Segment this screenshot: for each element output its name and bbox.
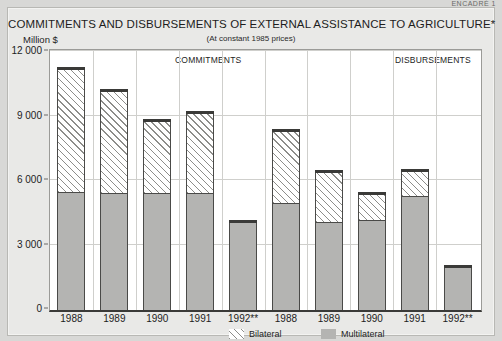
group-label-disbursements: DISBURSEMENTS (395, 55, 471, 65)
bar-1988-commitments (57, 67, 85, 310)
bar-1991-disbursements (401, 169, 429, 310)
gridline-x-5 (265, 50, 266, 310)
bar-top-cap (57, 67, 85, 70)
legend-swatch-bilateral (229, 329, 244, 339)
bar-segment-bilateral (100, 89, 128, 193)
x-axis-tick-label-4: 1992** (228, 313, 258, 324)
y-axis-tick-label-0: 0 (36, 303, 42, 314)
bar-top-cap (401, 169, 429, 172)
bar-top-cap (100, 89, 128, 92)
bar-1992**-commitments (229, 220, 257, 310)
y-axis-unit-label: Million $ (23, 34, 58, 45)
bar-segment-multilateral (444, 265, 472, 310)
bar-1991-commitments (186, 111, 214, 310)
legend-swatch-multilateral (321, 329, 336, 339)
chart-panel: COMMITMENTS AND DISBURSEMENTS OF EXTERNA… (7, 7, 495, 336)
chart-figure: ENCADRÉ 1 COMMITMENTS AND DISBURSEMENTS … (0, 0, 502, 341)
bar-segment-multilateral (100, 193, 128, 310)
bar-1992**-disbursements (444, 265, 472, 310)
x-axis-tick-label-5: 1988 (275, 313, 297, 324)
bar-1990-disbursements (358, 192, 386, 310)
gridline-x-8 (393, 50, 394, 310)
bar-segment-multilateral (315, 222, 343, 310)
chart-title: COMMITMENTS AND DISBURSEMENTS OF EXTERNA… (8, 18, 494, 30)
gridline-x-4 (222, 50, 223, 310)
bar-top-cap (358, 192, 386, 195)
chart-legend: BilateralMultilateral (49, 329, 480, 341)
bar-segment-multilateral (57, 192, 85, 310)
x-axis-tick-label-2: 1990 (146, 313, 168, 324)
gridline-x-1 (93, 50, 94, 310)
bar-1989-commitments (100, 89, 128, 310)
bar-top-cap (444, 265, 472, 268)
bar-1990-commitments (143, 119, 171, 310)
y-axis-tick-label-12000: 12 000 (11, 45, 42, 56)
legend-label-bilateral: Bilateral (249, 329, 282, 339)
bar-segment-multilateral (229, 220, 257, 310)
bar-top-cap (315, 170, 343, 173)
x-axis-tick-label-0: 1988 (60, 313, 82, 324)
bar-segment-multilateral (186, 193, 214, 310)
gridline-x-9 (436, 50, 437, 310)
bar-segment-bilateral (272, 129, 300, 202)
group-label-commitments: COMMITMENTS (175, 55, 241, 65)
bar-segment-bilateral (315, 170, 343, 222)
y-axis-tick-0 (44, 308, 48, 309)
gridline-x-7 (350, 50, 351, 310)
y-axis-tick-label-9000: 9 000 (17, 109, 42, 120)
gridline-x-2 (136, 50, 137, 310)
gridline-x-6 (307, 50, 308, 310)
y-axis-tick-label-6000: 6 000 (17, 174, 42, 185)
bar-segment-bilateral (358, 192, 386, 220)
bar-segment-multilateral (272, 203, 300, 311)
x-axis-tick-label-9: 1992** (443, 313, 473, 324)
y-axis-tick-label-3000: 3 000 (17, 238, 42, 249)
bar-segment-multilateral (143, 193, 171, 310)
bar-segment-bilateral (401, 169, 429, 196)
bar-top-cap (229, 220, 257, 223)
y-axis-tick-3000 (44, 243, 48, 244)
y-axis-tick-6000 (44, 179, 48, 180)
x-axis-tick-label-8: 1991 (404, 313, 426, 324)
bar-segment-multilateral (401, 196, 429, 310)
gridline-x-3 (179, 50, 180, 310)
x-axis-tick-label-7: 1990 (361, 313, 383, 324)
legend-label-multilateral: Multilateral (341, 329, 385, 339)
plot-area: COMMITMENTS DISBURSEMENTS (49, 49, 482, 312)
bar-top-cap (186, 111, 214, 114)
x-axis: 19881989199019911992**198819891990199119… (49, 311, 480, 329)
bar-top-cap (272, 129, 300, 132)
x-axis-tick-label-1: 1989 (103, 313, 125, 324)
y-axis-tick-12000 (44, 50, 48, 51)
bar-segment-bilateral (57, 67, 85, 192)
bar-1988-disbursements (272, 129, 300, 310)
legend-item-bilateral: Bilateral (229, 329, 282, 339)
bar-segment-bilateral (186, 111, 214, 193)
chart-subtitle: (At constant 1985 prices) (8, 34, 494, 43)
cut-off-header-text: ENCADRÉ 1 (451, 0, 496, 7)
bar-segment-multilateral (358, 220, 386, 310)
x-axis-tick-label-6: 1989 (318, 313, 340, 324)
bar-top-cap (143, 119, 171, 122)
bar-1989-disbursements (315, 170, 343, 310)
x-axis-tick-label-3: 1991 (189, 313, 211, 324)
legend-item-multilateral: Multilateral (321, 329, 385, 339)
bar-segment-bilateral (143, 119, 171, 193)
y-axis-tick-9000 (44, 114, 48, 115)
y-axis: 03 0006 0009 00012 000 (8, 49, 47, 309)
